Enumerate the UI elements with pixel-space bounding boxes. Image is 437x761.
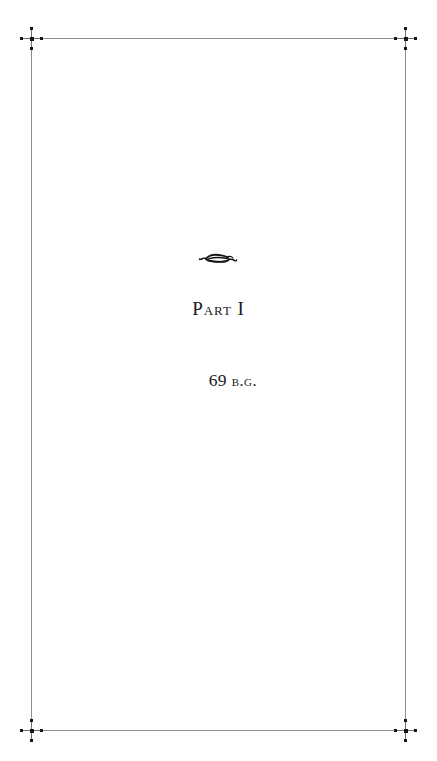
part-title-page: Part I 69 b.g.: [0, 0, 437, 761]
corner-dot-center: [404, 37, 408, 41]
corner-dot-south: [404, 47, 407, 50]
corner-dot-center: [404, 729, 408, 733]
corner-dot-east: [40, 729, 43, 732]
corner-dot-north: [404, 719, 407, 722]
corner-dot-north: [30, 27, 33, 30]
corner-dot-north: [30, 719, 33, 722]
corner-mark-bottom-left: [31, 730, 32, 731]
corner-dot-center: [30, 729, 34, 733]
corner-dot-east: [40, 37, 43, 40]
corner-dot-north: [404, 27, 407, 30]
part-date-number: 69: [209, 370, 227, 390]
corner-mark-bottom-right: [405, 730, 406, 731]
corner-dot-east: [414, 729, 417, 732]
corner-dot-west: [20, 729, 23, 732]
border-rule-bottom: [31, 730, 405, 731]
border-rule-top: [31, 38, 405, 39]
corner-mark-top-right: [405, 38, 406, 39]
part-date-era: b.g.: [232, 372, 257, 389]
corner-dot-south: [30, 47, 33, 50]
part-date-line: 69 b.g.: [31, 344, 406, 417]
corner-dot-center: [30, 37, 34, 41]
corner-dot-west: [394, 37, 397, 40]
corner-dot-east: [414, 37, 417, 40]
corner-dot-west: [20, 37, 23, 40]
corner-dot-south: [404, 739, 407, 742]
horizontal-flourish-ornament: [31, 250, 406, 274]
corner-dot-south: [30, 739, 33, 742]
corner-mark-top-left: [31, 38, 32, 39]
corner-dot-west: [394, 729, 397, 732]
part-title-label: Part I: [31, 297, 406, 321]
